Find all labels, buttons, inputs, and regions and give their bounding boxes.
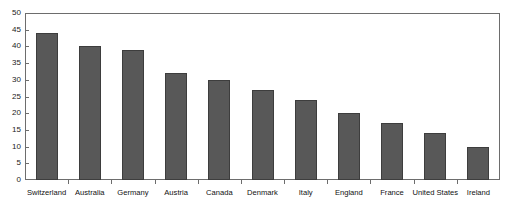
x-axis: SwitzerlandAustraliaGermanyAustriaCanada…	[25, 180, 500, 208]
x-axis-label-united-states: United States	[412, 188, 458, 197]
y-axis-tick-label: 25	[12, 93, 21, 101]
y-axis-tick-label: 50	[12, 9, 21, 17]
x-axis-label-switzerland: Switzerland	[27, 188, 66, 197]
x-axis-tick-mark	[327, 180, 328, 184]
y-axis-tick-label: 20	[12, 109, 21, 117]
y-axis-tick-label: 45	[12, 26, 21, 34]
bar-england	[338, 113, 360, 180]
y-axis-tick-label: 30	[12, 76, 21, 84]
y-axis: 05101520253035404550	[0, 0, 25, 208]
bar-canada	[208, 80, 230, 180]
bar-austria	[165, 73, 187, 180]
x-axis-tick-mark	[111, 180, 112, 184]
bar-australia	[79, 46, 101, 180]
x-axis-label-england: England	[335, 188, 363, 197]
x-axis-label-australia: Australia	[75, 188, 105, 197]
bar-switzerland	[36, 33, 58, 180]
x-axis-tick-mark	[68, 180, 69, 184]
x-axis-tick-mark	[241, 180, 242, 184]
y-axis-tick-label: 10	[12, 143, 21, 151]
bar-denmark	[252, 90, 274, 180]
bars-group	[25, 13, 500, 180]
y-axis-tick-label: 5	[17, 159, 21, 167]
x-axis-label-denmark: Denmark	[247, 188, 278, 197]
x-axis-label-austria: Austria	[164, 188, 188, 197]
x-axis-tick-mark	[457, 180, 458, 184]
x-axis-label-ireland: Ireland	[467, 188, 490, 197]
bar-chart-figure: · ·· · ·· · · 05101520253035404550 Switz…	[0, 0, 513, 208]
x-axis-label-france: France	[380, 188, 404, 197]
bar-united-states	[424, 133, 446, 180]
bar-ireland	[467, 147, 489, 180]
x-axis-tick-mark	[414, 180, 415, 184]
y-axis-tick-label: 0	[17, 176, 21, 184]
x-axis-label-italy: Italy	[299, 188, 313, 197]
bar-france	[381, 123, 403, 180]
bar-germany	[122, 50, 144, 180]
x-axis-label-germany: Germany	[117, 188, 148, 197]
y-axis-tick-label: 35	[12, 59, 21, 67]
x-axis-tick-mark	[198, 180, 199, 184]
y-axis-tick-label: 15	[12, 126, 21, 134]
x-axis-tick-mark	[155, 180, 156, 184]
bar-italy	[295, 100, 317, 180]
x-axis-tick-mark	[370, 180, 371, 184]
x-axis-label-canada: Canada	[206, 188, 233, 197]
cut-off-header-text: · ·· · ·· · ·	[0, 0, 513, 6]
x-axis-tick-mark	[284, 180, 285, 184]
y-axis-tick-label: 40	[12, 42, 21, 50]
